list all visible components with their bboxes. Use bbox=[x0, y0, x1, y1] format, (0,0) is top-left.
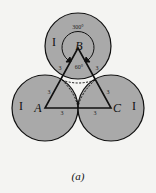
caption: (a) bbox=[72, 170, 85, 183]
angle-inner-label: 60° bbox=[75, 64, 84, 70]
side-label-2: 3 bbox=[96, 65, 99, 71]
region-right-label: I bbox=[132, 99, 136, 113]
circles bbox=[12, 13, 144, 141]
diagram-canvas: 300° 60° B A C I I I 3 3 3 3 3 3 (a) bbox=[0, 0, 156, 193]
side-label-1: 3 bbox=[59, 65, 62, 71]
region-top-label: I bbox=[52, 35, 56, 49]
vertex-b-label: B bbox=[75, 39, 83, 53]
side-label-6: 3 bbox=[94, 110, 97, 116]
angle-outer-label: 300° bbox=[72, 24, 84, 30]
region-left-label: I bbox=[19, 99, 23, 113]
side-label-4: 3 bbox=[107, 89, 110, 95]
side-label-5: 3 bbox=[61, 110, 64, 116]
side-label-3: 3 bbox=[48, 89, 51, 95]
vertex-c-label: C bbox=[113, 101, 122, 115]
vertex-a-label: A bbox=[33, 101, 42, 115]
